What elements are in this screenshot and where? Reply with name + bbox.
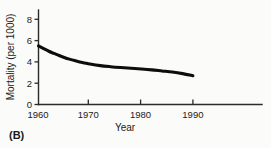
- x-axis-title: Year: [115, 122, 136, 133]
- figure-panel-b: 8 6 4 2 0 1960 1970 1980 1990 Year Morta…: [0, 0, 271, 148]
- mortality-curve: [39, 46, 193, 76]
- x-tick-label-1960: 1960: [27, 109, 48, 120]
- x-tick-label-1990: 1990: [182, 109, 203, 120]
- panel-label: (B): [9, 129, 25, 141]
- x-tick-label-1970: 1970: [78, 109, 99, 120]
- x-tick-label-1980: 1980: [130, 109, 151, 120]
- y-tick-label-2: 2: [27, 78, 32, 89]
- y-axis-title: Mortality (per 1000): [5, 14, 16, 101]
- mortality-line-chart: 8 6 4 2 0 1960 1970 1980 1990 Year Morta…: [0, 0, 271, 148]
- y-tick-label-6: 6: [27, 35, 32, 46]
- y-tick-label-4: 4: [27, 56, 32, 67]
- y-tick-label-8: 8: [27, 14, 32, 25]
